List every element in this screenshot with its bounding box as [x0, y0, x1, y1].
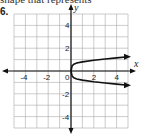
svg-text:0: 0	[65, 73, 70, 82]
svg-text:x: x	[133, 58, 139, 69]
svg-text:4: 4	[65, 21, 70, 30]
svg-text:2: 2	[92, 73, 97, 82]
axes: xy	[2, 2, 139, 134]
svg-text:-4: -4	[62, 113, 70, 122]
graph: xy -4-202442-2-4	[0, 0, 142, 134]
svg-text:-2: -2	[62, 90, 70, 99]
svg-text:y: y	[73, 2, 79, 13]
svg-text:-4: -4	[20, 73, 28, 82]
svg-text:4: 4	[115, 73, 120, 82]
svg-text:2: 2	[65, 44, 70, 53]
svg-text:-2: -2	[43, 73, 51, 82]
